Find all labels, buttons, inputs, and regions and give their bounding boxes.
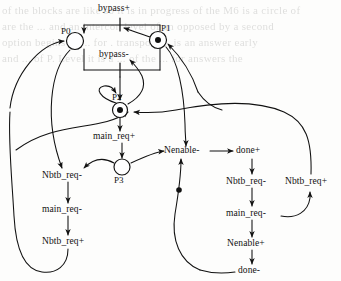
arc-mainreqminus-right-to-nbtbreqplus-right — [281, 192, 310, 217]
arc-doneminus-leftward — [200, 270, 235, 273]
place-label-P1: P1 — [161, 24, 171, 33]
arc-P3-to-nbtb-req-minus-left — [84, 159, 114, 168]
transition-label-nbtb-req-minus-right[interactable]: Nbtb_req- — [226, 177, 266, 187]
transition-label-bypass-plus[interactable]: bypass+ — [98, 4, 130, 14]
token-P2 — [117, 107, 123, 113]
token-P1 — [155, 37, 161, 43]
arc-doneminus-loop-to-nenable-minus — [174, 160, 200, 270]
arc-nbtbreqplus-left-loop-up — [9, 112, 68, 272]
arc-right-sweep-to-P1 — [168, 44, 198, 92]
place-label-P2: P2 — [112, 93, 122, 102]
transition-label-main-req-minus-left[interactable]: main_req- — [42, 205, 82, 215]
arc-nbtbreqplus-right-to-P2 — [134, 103, 311, 174]
transition-label-nbtb-req-plus-right[interactable]: Nbtb_req+ — [285, 177, 327, 187]
transition-label-done-minus[interactable]: done- — [238, 266, 260, 276]
transition-bar-bypass-minus — [84, 63, 160, 77]
arc-P1-to-bypassplus — [124, 28, 150, 37]
arc-P3-to-nenable-minus — [131, 151, 164, 163]
arc-right-sweep-tail — [198, 92, 222, 110]
transition-label-nbtb-req-plus-left[interactable]: Nbtb_req+ — [42, 237, 84, 247]
transition-label-nenable-plus[interactable]: Nenable+ — [227, 239, 265, 249]
transition-label-nenable-minus[interactable]: Nenable- — [164, 146, 200, 156]
transition-label-done-plus[interactable]: done+ — [236, 146, 260, 156]
arc-P2-to-bypassminus-bar — [128, 60, 143, 104]
petri-net-figure: of the blocks are like so it is in progr… — [0, 0, 341, 281]
transition-bar-bypass-plus — [84, 18, 160, 31]
transition-label-main-req-plus[interactable]: main_req+ — [93, 132, 135, 142]
transition-label-nbtb-req-minus-left[interactable]: Nbtb_req- — [42, 171, 82, 181]
transition-label-bypass-minus[interactable]: bypass- — [99, 50, 129, 60]
place-P3[interactable] — [114, 159, 130, 175]
arc-P0-to-nbtb-req-minus-left — [51, 50, 70, 168]
transition-label-main-req-minus-right[interactable]: main_req- — [226, 209, 266, 219]
token-on-arc — [176, 187, 182, 193]
place-label-P3: P3 — [114, 176, 124, 185]
place-label-P0: P0 — [61, 27, 71, 36]
